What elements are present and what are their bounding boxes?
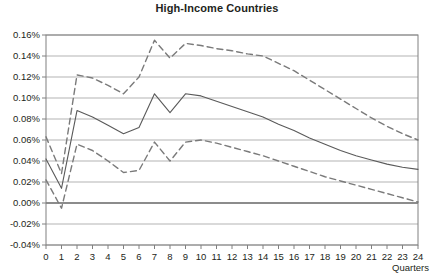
y-axis-tick-label: 0.00% [13, 197, 40, 208]
data-series-group [46, 40, 418, 208]
y-axis-tick-label: 0.04% [13, 155, 40, 166]
y-axis-tick-label: 0.02% [13, 176, 40, 187]
gridlines-group [46, 35, 418, 245]
series-line [46, 94, 418, 189]
x-axis-title: Quarters [392, 262, 429, 273]
y-axis-tick-label: 0.10% [13, 92, 40, 103]
y-axis-tick-label: 0.12% [13, 71, 40, 82]
series-line [46, 140, 418, 208]
x-axis-tick-label: 24 [408, 251, 428, 262]
chart-plot-area [0, 0, 434, 279]
y-axis-tick-label: -0.04% [10, 239, 40, 250]
x-axis-ticks [46, 245, 418, 249]
y-axis-tick-label: 0.06% [13, 134, 40, 145]
y-axis-ticks [42, 35, 46, 245]
y-axis-tick-label: 0.08% [13, 113, 40, 124]
y-axis-tick-label: 0.16% [13, 29, 40, 40]
chart-figure: High-Income Countries 0.16%0.14%0.12%0.1… [0, 0, 434, 279]
y-axis-tick-label: 0.14% [13, 50, 40, 61]
y-axis-tick-label: -0.02% [10, 218, 40, 229]
